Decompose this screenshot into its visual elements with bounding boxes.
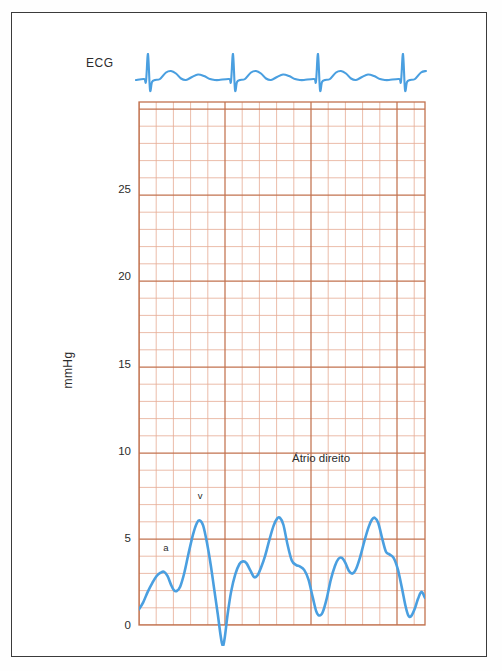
ecg-trace-group — [136, 54, 426, 91]
pressure-grid — [139, 102, 425, 625]
y-axis-title: mmHg — [61, 352, 75, 389]
y-axis-tick-labels: 0510152025 — [118, 183, 131, 631]
grid-minor-lines — [139, 102, 425, 625]
chamber-annotation: Átrio direito — [292, 452, 350, 464]
v-wave-label: v — [198, 490, 203, 501]
hemodynamic-chart: ECG 0510152025 mmHg Átrio direito a v — [0, 0, 502, 671]
ecg-trace — [136, 54, 426, 91]
y-axis-tick-label: 0 — [125, 619, 131, 631]
right-atrium-pressure-trace — [139, 517, 425, 646]
y-axis-tick-label: 10 — [118, 445, 131, 457]
ecg-label: ECG — [86, 56, 114, 70]
a-wave-label: a — [163, 542, 169, 553]
grid-outer-border — [139, 102, 425, 625]
y-axis-tick-label: 15 — [118, 358, 131, 370]
y-axis-tick-label: 25 — [118, 183, 131, 195]
pressure-trace-group — [139, 517, 425, 646]
grid-major-lines — [139, 102, 425, 625]
y-axis-tick-label: 20 — [118, 270, 131, 282]
y-axis-tick-label: 5 — [125, 532, 131, 544]
figure-page: ECG 0510152025 mmHg Átrio direito a v — [0, 0, 502, 671]
